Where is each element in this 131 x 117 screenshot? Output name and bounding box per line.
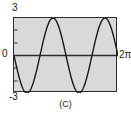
plot-canvas: [14, 18, 118, 93]
y-axis-max-label: 3: [12, 3, 18, 13]
y-axis-zero-label: 0: [2, 49, 8, 59]
sine-wave-figure: 3 0 -3 2π (C): [0, 0, 131, 117]
x-axis-max-label: 2π: [119, 50, 131, 60]
figure-caption: (C): [0, 99, 131, 109]
plot-frame: [13, 17, 117, 92]
